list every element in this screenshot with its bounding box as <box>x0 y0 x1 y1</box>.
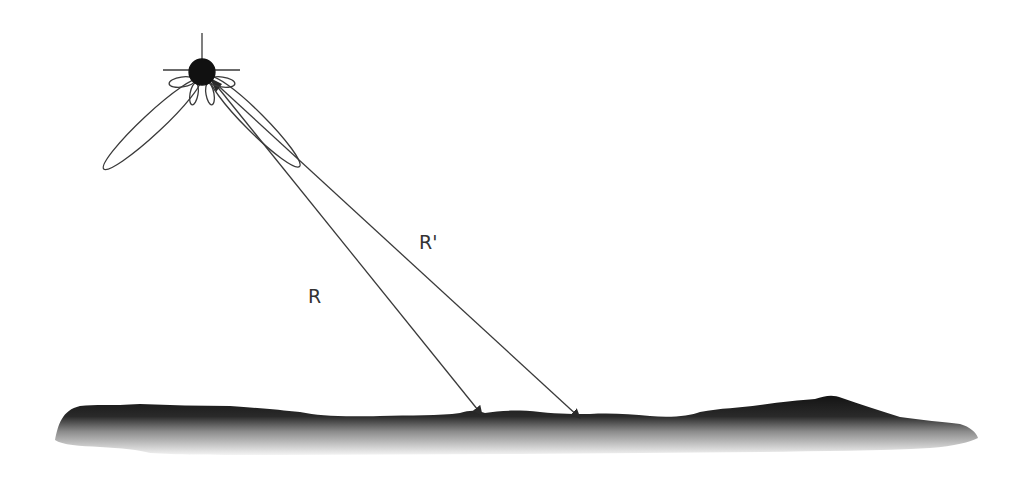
antenna-body <box>189 59 215 85</box>
antenna <box>97 33 307 176</box>
label-range-r-prime: R' <box>419 231 437 253</box>
terrain-profile <box>55 396 978 455</box>
diagram-canvas <box>0 0 1033 481</box>
label-range-r: R <box>308 285 321 307</box>
range-vectors <box>210 78 580 418</box>
terrain <box>55 396 978 455</box>
range-R-prime-line <box>212 80 580 418</box>
range-R-line <box>212 80 482 415</box>
main-lobe-left <box>97 72 207 177</box>
